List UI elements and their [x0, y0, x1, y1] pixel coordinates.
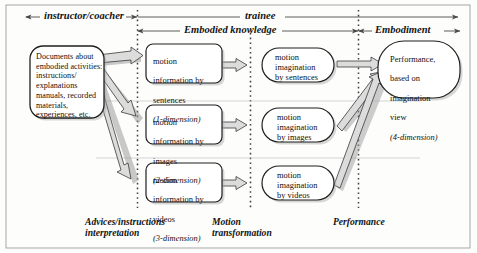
- node-info-sentences-line2: information by: [153, 76, 204, 85]
- node-performance-line3: imagination: [390, 94, 431, 103]
- node-documents-label: Documents about embodied activities: ins…: [36, 52, 106, 120]
- node-info-videos-line1: motion: [153, 176, 177, 185]
- node-imag-sentences-label: motion imagination by sentences: [275, 53, 335, 82]
- header-trainee: trainee: [245, 10, 275, 22]
- header-embodiment: Embodiment: [375, 24, 430, 36]
- node-info-sentences-line3: sentences: [153, 96, 186, 105]
- node-imag-images-label: motion imagination by images: [277, 113, 337, 142]
- arrow-imag-sentences-to-performance: [337, 57, 383, 71]
- node-info-images-line1: motion: [153, 118, 177, 127]
- node-info-images-line2: information by: [153, 137, 204, 146]
- node-performance-dimension: (4-dimension): [390, 133, 438, 142]
- node-info-videos-line2: information by: [153, 195, 204, 204]
- node-performance-label: Performance, based on imagination view (…: [390, 45, 458, 143]
- node-performance-line1: Performance,: [390, 55, 435, 64]
- node-info-sentences-line1: motion: [153, 57, 177, 66]
- node-imag-videos-label: motion imagination by videos: [277, 171, 337, 200]
- diagram-canvas: instructor/coacher trainee Embodied know…: [0, 0, 477, 253]
- stage-label-interpretation: Advices/instructions interpretation: [85, 216, 165, 239]
- stage-label-transformation: Motion transformation: [212, 216, 272, 239]
- node-performance-line2: based on: [390, 74, 420, 83]
- node-info-images-line3: images: [153, 157, 177, 166]
- stage-label-performance: Performance: [333, 216, 385, 227]
- header-instructor-coacher: instructor/coacher: [44, 10, 124, 22]
- node-performance-line4: view: [390, 113, 406, 122]
- header-embodied-knowledge: Embodied knowledge: [184, 24, 276, 36]
